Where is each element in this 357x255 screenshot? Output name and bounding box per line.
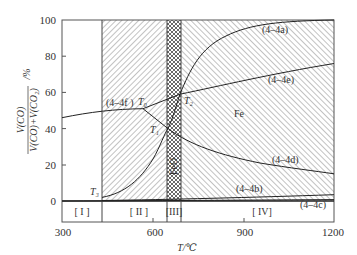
label-4-4f: (4–4f ) xyxy=(106,97,134,109)
label-feo: FeO xyxy=(168,158,179,175)
region-label-iii: [III] xyxy=(166,206,183,217)
svg-text:V(CO)+V(CO₂): V(CO)+V(CO₂) xyxy=(28,88,40,152)
x-axis-title: T/℃ xyxy=(177,242,197,253)
label-4-4e: (4–4e) xyxy=(268,74,294,86)
x-tick-900: 900 xyxy=(237,226,254,238)
x-tick-1200: 1200 xyxy=(322,226,345,238)
region-label-iv: [ IV] xyxy=(252,206,272,217)
svg-text:V(CO): V(CO) xyxy=(15,106,27,133)
svg-text:/%: /% xyxy=(21,68,32,80)
label-t2: T₂ xyxy=(184,95,194,106)
label-4-4c: (4–4c) xyxy=(300,199,326,211)
label-t3: T₃ xyxy=(90,186,100,197)
region-fe-hatch xyxy=(181,20,334,201)
x-tick-300: 300 xyxy=(55,226,72,238)
label-4-4b: (4–4b) xyxy=(236,183,263,195)
y-axis-title: V(CO) V(CO)+V(CO₂) /% xyxy=(15,68,40,154)
y-tick-60: 60 xyxy=(45,86,57,98)
x-tick-600: 600 xyxy=(147,226,164,238)
label-t0: T₀ xyxy=(138,96,148,107)
label-t1: T₁ xyxy=(150,124,159,135)
y-ticks xyxy=(62,56,66,201)
y-tick-40: 40 xyxy=(45,123,57,135)
label-4-4a: (4–4a) xyxy=(262,24,288,36)
region-label-ii: [ II ] xyxy=(130,206,148,217)
y-tick-20: 20 xyxy=(45,159,57,171)
chart: 0 20 40 60 80 100 300 600 900 1200 T/℃ V… xyxy=(0,0,357,255)
label-4-4d: (4–4d) xyxy=(272,154,299,166)
y-tick-80: 80 xyxy=(45,50,57,62)
label-fe: Fe xyxy=(234,108,245,119)
y-tick-100: 100 xyxy=(40,14,57,26)
y-tick-0: 0 xyxy=(51,195,57,207)
region-label-i: [ I ] xyxy=(75,206,90,217)
